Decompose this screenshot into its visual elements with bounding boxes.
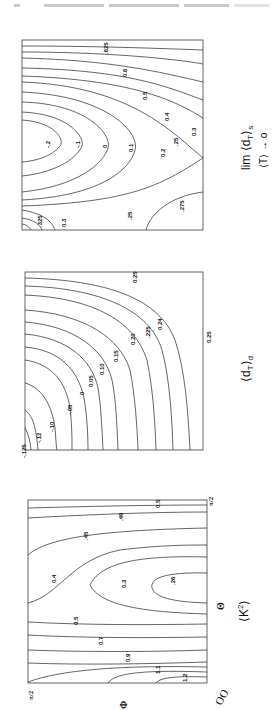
axis-label-theta: Θ: [215, 602, 226, 610]
contour-label: 0.25: [132, 271, 138, 283]
contour-plot-dT-d: 0.25 0.25 0.24 .225 0.20 0.15 0.10 0.05 …: [0, 250, 279, 480]
axis-tick-pi2-y: π/2: [27, 690, 35, 700]
contour-label: 0.5: [142, 91, 148, 100]
contour-label: -.1: [75, 140, 81, 148]
contour-label: -.125: [21, 444, 27, 458]
panel-caption: lim ⟨dT⟩s ⟨T⟩ → o: [239, 126, 269, 170]
contour-label: 0.7: [98, 636, 104, 645]
contour-label: 1.2: [182, 673, 188, 682]
contour-label: 0.20: [130, 333, 136, 345]
contour-label: 0.9: [125, 653, 131, 662]
svg-text:lim ⟨dT⟩s: lim ⟨dT⟩s: [239, 126, 255, 170]
contour-label: 0.05: [88, 375, 94, 387]
contour-label: 0.3: [61, 218, 67, 227]
contour-label: .275: [179, 200, 185, 212]
panel-caption: ⟨K2⟩: [236, 600, 251, 622]
axis-tick-pi2-x: π/2: [207, 496, 215, 506]
contour-label: 0.25: [206, 331, 212, 343]
svg-text:⟨T⟩ → o: ⟨T⟩ → o: [258, 132, 269, 168]
contour-label: .25: [173, 137, 179, 146]
contour-label: 0.5: [73, 616, 79, 625]
axis-origin: OO: [212, 687, 230, 707]
contour-label: .45: [83, 531, 89, 540]
contour-label: .26: [170, 576, 176, 585]
contour-label: 0.6: [122, 68, 128, 77]
contour-label: 0.10: [99, 363, 105, 375]
contour-label: -.12: [36, 432, 42, 443]
contour-label: .25: [127, 211, 133, 220]
contour-label: 0.5: [155, 499, 161, 508]
svg-text:⟨dT⟩d: ⟨dT⟩d: [239, 356, 255, 382]
contour-label: .225: [145, 326, 151, 338]
contour-label: .625: [103, 42, 109, 54]
contour-label: 1.1: [155, 665, 161, 674]
contour-label: .325: [37, 215, 43, 227]
contour-label: 0: [102, 144, 108, 148]
contour-label: 0.4: [51, 574, 57, 583]
contour-label: 0.24: [157, 318, 163, 330]
contour-label: 0.2: [160, 148, 166, 157]
contour-label: -.2: [45, 140, 51, 148]
contour-label: -.05: [67, 404, 73, 415]
contour-label: 0.1: [128, 143, 134, 152]
contour-plot-lim-dT-s: -.2 -.1 0 0.1 0.2 .25 0.3 0.4 0.5 0.6 .6…: [0, 0, 279, 250]
contour-label: -.10: [49, 421, 55, 432]
contour-label: 0.3: [191, 127, 197, 136]
contour-label: 0.3: [121, 579, 127, 588]
svg-text:⟨K2⟩: ⟨K2⟩: [236, 600, 251, 622]
contour-label: .49: [118, 512, 124, 521]
axis-label-phi: Φ: [118, 701, 129, 709]
contour-label: 0: [79, 391, 85, 395]
panel-caption: ⟨dT⟩d: [239, 356, 255, 382]
contour-label: 0.15: [113, 350, 119, 362]
contour-label: 0.4: [164, 112, 170, 121]
contour-plot-K2: 0.5 .49 .45 0.4 0.3 .26 0.5 0.7 0.9 1.1 …: [0, 480, 279, 710]
